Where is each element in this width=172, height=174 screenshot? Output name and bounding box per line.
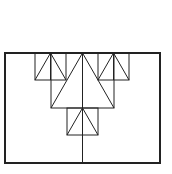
fractal-triangle-diagram — [0, 0, 172, 174]
top-right-square-group — [98, 53, 129, 80]
top-left-square-group — [35, 53, 66, 80]
